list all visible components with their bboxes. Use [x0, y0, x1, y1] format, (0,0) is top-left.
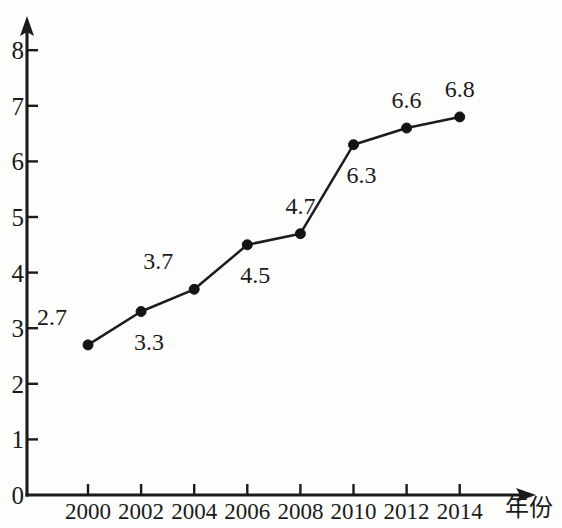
x-axis-tick-label: 2014 [431, 500, 489, 523]
x-axis-tick-label: 2012 [378, 500, 436, 523]
data-point-value-label: 6.3 [339, 163, 385, 187]
x-axis-tick-label: 2002 [112, 500, 170, 523]
y-axis-ticks [27, 50, 38, 439]
data-point-value-label: 2.7 [29, 305, 75, 329]
x-axis-tick-label: 2006 [218, 500, 276, 523]
y-axis-tick-label: 6 [0, 149, 24, 174]
x-axis-title: 年份 [505, 496, 553, 520]
x-axis-ticks [88, 484, 460, 495]
x-axis-tick-label: 2010 [325, 500, 383, 523]
data-point-value-label: 3.3 [126, 330, 172, 354]
data-point-marker [189, 284, 199, 294]
y-axis-tick-label: 8 [0, 38, 24, 63]
x-axis-tick-label: 2008 [271, 500, 329, 523]
y-axis-tick-label: 5 [0, 205, 24, 230]
data-point-value-label: 3.7 [135, 249, 181, 273]
data-point-marker [455, 112, 465, 122]
y-axis-tick-label: 0 [0, 483, 24, 508]
series-markers [83, 112, 465, 350]
data-point-value-label: 4.5 [232, 263, 278, 287]
y-axis-tick-label: 2 [0, 372, 24, 397]
data-point-value-label: 4.7 [277, 194, 323, 218]
y-axis-tick-label: 1 [0, 427, 24, 452]
data-point-marker [83, 340, 93, 350]
data-point-value-label: 6.6 [384, 88, 430, 112]
data-point-marker [402, 123, 412, 133]
data-point-marker [242, 240, 252, 250]
x-axis-tick-label: 2000 [59, 500, 117, 523]
data-point-marker [349, 140, 359, 150]
data-point-marker [295, 229, 305, 239]
y-axis-tick-label: 3 [0, 316, 24, 341]
x-axis-tick-label: 2004 [165, 500, 223, 523]
data-point-value-label: 6.8 [437, 77, 483, 101]
data-point-marker [136, 307, 146, 317]
y-axis-tick-label: 4 [0, 261, 24, 286]
line-chart: 012345678 200020022004200620082010201220… [0, 0, 562, 528]
y-axis-tick-label: 7 [0, 94, 24, 119]
